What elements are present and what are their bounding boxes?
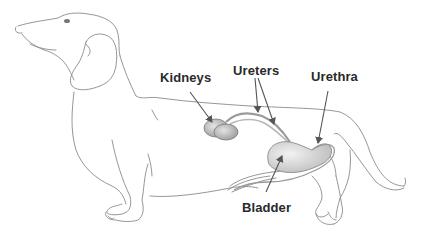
dog-outline bbox=[15, 13, 405, 224]
dog-illustration bbox=[0, 0, 424, 242]
label-ureters: Ureters bbox=[233, 63, 279, 78]
label-urethra: Urethra bbox=[311, 69, 358, 84]
kidneys-pointer bbox=[190, 92, 212, 122]
urethra-pointer bbox=[318, 91, 328, 143]
label-bladder: Bladder bbox=[242, 200, 291, 215]
ureters-pointer-1 bbox=[255, 78, 258, 112]
kidney-right bbox=[214, 124, 238, 140]
dog-urinary-diagram: Kidneys Ureters Urethra Bladder bbox=[0, 0, 424, 242]
bladder-organ bbox=[268, 142, 332, 173]
label-kidneys: Kidneys bbox=[160, 70, 211, 85]
